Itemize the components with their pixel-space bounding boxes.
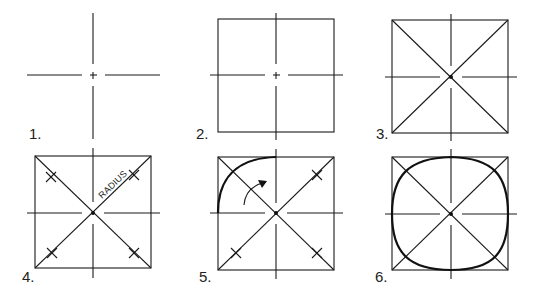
step-4-label: 4. — [22, 268, 35, 285]
step-5-label: 5. — [199, 268, 212, 285]
center-point — [449, 75, 453, 79]
circle-construction-diagram: 1. 2. 3. RADIUS — [0, 0, 537, 291]
step-1-panel: 1. — [27, 13, 160, 142]
step-5-panel: 5. — [199, 149, 343, 285]
step-1-label: 1. — [29, 125, 42, 142]
step-6-panel: 6. — [375, 149, 517, 285]
step-2-panel: 2. — [196, 13, 343, 142]
radius-annotation: RADIUS — [96, 168, 129, 200]
step-3-label: 3. — [376, 125, 389, 142]
step-3-panel: 3. — [376, 14, 517, 142]
step-6-label: 6. — [375, 268, 388, 285]
step-2-label: 2. — [196, 125, 209, 142]
step-4-panel: RADIUS 4. — [22, 148, 160, 285]
